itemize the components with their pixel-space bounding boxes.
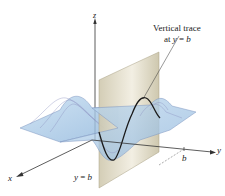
y-tick-label-b: b [182,153,187,163]
annotation-line-2: at y = b [164,34,191,44]
plane-base-dashed [159,149,184,165]
y-axis-label: y [217,145,221,155]
annotation-eq: = [177,34,187,44]
x-axis-label: x [8,173,12,183]
plane-label-eq: = [78,172,88,182]
annotation-prefix: at [164,34,173,44]
annotation-line-1: Vertical trace [153,23,201,33]
z-axis-label: z [93,11,96,20]
plane-label: y = b [74,172,92,182]
annotation-val: b [186,34,191,44]
plane-label-val: b [88,172,93,182]
